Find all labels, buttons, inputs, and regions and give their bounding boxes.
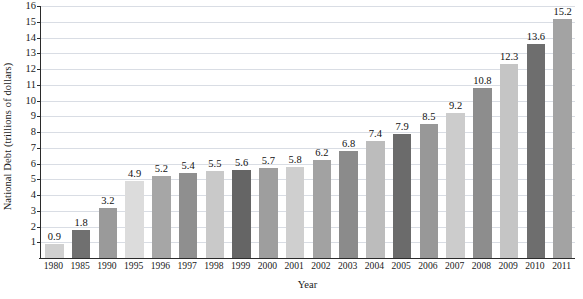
y-axis-tick-label: 10 — [26, 95, 37, 106]
bar[interactable] — [286, 167, 305, 258]
y-axis-tick-label: 13 — [26, 48, 37, 59]
x-axis-tick-label: 2010 — [525, 261, 544, 271]
y-axis-tick-label: 12 — [26, 64, 37, 75]
bar-group[interactable]: 15.2 — [553, 6, 572, 258]
bar-value-label: 15.2 — [553, 7, 571, 18]
bar-group[interactable]: 5.5 — [206, 6, 225, 258]
x-axis-tick-label: 2006 — [418, 261, 437, 271]
y-axis-tick-label: 11 — [26, 80, 36, 91]
bar[interactable] — [446, 113, 465, 258]
x-axis-tick-label: 2008 — [472, 261, 491, 271]
bar[interactable] — [366, 141, 385, 258]
y-axis-tick-label: 16 — [26, 1, 37, 12]
x-axis-tick-label: 1999 — [231, 261, 250, 271]
x-axis-tick-label: 2007 — [445, 261, 464, 271]
bar-value-label: 5.5 — [208, 159, 221, 170]
bars-layer: 0.91.83.24.95.25.45.55.65.75.86.26.87.47… — [41, 6, 575, 258]
x-axis-tick-label: 2001 — [285, 261, 304, 271]
bar[interactable] — [72, 230, 91, 258]
y-axis-tick-label: 5 — [31, 174, 36, 185]
bar[interactable] — [259, 168, 278, 258]
y-axis-tick-label: 7 — [31, 143, 36, 154]
x-axis-tick-label: 1980 — [44, 261, 63, 271]
bar-group[interactable]: 5.6 — [232, 6, 251, 258]
bar-value-label: 5.4 — [182, 161, 195, 172]
bar-value-label: 5.6 — [235, 158, 248, 169]
x-axis-tick-label: 2003 — [338, 261, 357, 271]
bar[interactable] — [206, 171, 225, 258]
national-debt-bar-chart: National Debt (trillions of dollars) 161… — [0, 0, 583, 299]
bar[interactable] — [99, 208, 118, 258]
bar-group[interactable]: 6.2 — [313, 6, 332, 258]
x-axis-tick-label: 2000 — [258, 261, 277, 271]
bar[interactable] — [45, 244, 64, 258]
x-axis-tick-label: 2004 — [365, 261, 384, 271]
x-axis-tick-label: 2002 — [311, 261, 330, 271]
bar-value-label: 5.7 — [262, 156, 275, 167]
bar[interactable] — [313, 160, 332, 258]
bar-value-label: 10.8 — [473, 76, 491, 87]
x-axis-tick-label: 1985 — [71, 261, 90, 271]
bar-group[interactable]: 0.9 — [45, 6, 64, 258]
bar-group[interactable]: 6.8 — [339, 6, 358, 258]
bar-group[interactable]: 5.8 — [286, 6, 305, 258]
x-axis-tick-label: 1998 — [204, 261, 223, 271]
bar[interactable] — [393, 134, 412, 258]
y-axis-tick-label: 2 — [31, 221, 36, 232]
bar-value-label: 3.2 — [101, 196, 114, 207]
bar[interactable] — [232, 170, 251, 258]
y-axis-tick-label: 6 — [31, 158, 36, 169]
y-axis-tick-label: 1 — [31, 237, 36, 248]
bar[interactable] — [527, 44, 546, 258]
bar-group[interactable]: 5.4 — [179, 6, 198, 258]
bar-group[interactable]: 7.9 — [393, 6, 412, 258]
y-axis-tick-label: 9 — [31, 111, 36, 122]
bar[interactable] — [152, 176, 171, 258]
bar[interactable] — [473, 88, 492, 258]
y-axis-tick-label: 15 — [26, 17, 37, 28]
bar-value-label: 5.2 — [155, 164, 168, 175]
bar[interactable] — [339, 151, 358, 258]
bar[interactable] — [420, 124, 439, 258]
bar-group[interactable]: 13.6 — [527, 6, 546, 258]
bar[interactable] — [553, 19, 572, 258]
x-axis-title: Year — [40, 279, 575, 290]
bar-group[interactable]: 8.5 — [420, 6, 439, 258]
x-axis-tick-label: 1995 — [124, 261, 143, 271]
bar-group[interactable]: 5.7 — [259, 6, 278, 258]
bar-value-label: 1.8 — [75, 218, 88, 229]
bar[interactable] — [500, 64, 519, 258]
y-axis-tick-label: 14 — [26, 32, 37, 43]
y-axis-tick-label: 8 — [31, 127, 36, 138]
bar-group[interactable]: 4.9 — [125, 6, 144, 258]
bar-group[interactable]: 1.8 — [72, 6, 91, 258]
bar[interactable] — [179, 173, 198, 258]
x-axis-line — [39, 258, 575, 259]
bar-value-label: 7.4 — [369, 129, 382, 140]
x-axis-tick-label: 1990 — [97, 261, 116, 271]
bar-group[interactable]: 12.3 — [500, 6, 519, 258]
bar-value-label: 12.3 — [500, 52, 518, 63]
bar-value-label: 9.2 — [449, 101, 462, 112]
bar-group[interactable]: 7.4 — [366, 6, 385, 258]
bar-group[interactable]: 5.2 — [152, 6, 171, 258]
bar[interactable] — [125, 181, 144, 258]
x-axis-tick-labels: 1980198519901995199619971998199920002001… — [40, 261, 575, 277]
bar-value-label: 13.6 — [527, 32, 545, 43]
x-axis-tick-label: 1997 — [178, 261, 197, 271]
x-axis-tick-label: 2011 — [552, 261, 571, 271]
bar-value-label: 4.9 — [128, 169, 141, 180]
x-axis-tick-label: 2009 — [499, 261, 518, 271]
bar-value-label: 6.8 — [342, 139, 355, 150]
bar-value-label: 5.8 — [289, 155, 302, 166]
bar-group[interactable]: 3.2 — [99, 6, 118, 258]
bar-value-label: 8.5 — [422, 112, 435, 123]
y-axis-tick-labels: 16151413121110987654321 — [14, 0, 38, 258]
y-axis-title-text: National Debt (trillions of dollars) — [3, 62, 14, 210]
bar-value-label: 6.2 — [315, 148, 328, 159]
x-axis-tick-label: 1996 — [151, 261, 170, 271]
plot-area: 0.91.83.24.95.25.45.55.65.75.86.26.87.47… — [40, 6, 575, 258]
bar-group[interactable]: 9.2 — [446, 6, 465, 258]
bar-group[interactable]: 10.8 — [473, 6, 492, 258]
y-axis-tick-label: 3 — [31, 206, 36, 217]
